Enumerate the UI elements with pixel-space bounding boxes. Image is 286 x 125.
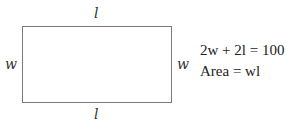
rectangle-diagram: l l w w 2w + 2l = 100 Area = wl [0,0,286,125]
top-side-label: l [94,6,98,20]
area-equation: Area = wl [200,64,260,79]
left-side-label: w [5,57,17,71]
perimeter-equation: 2w + 2l = 100 [200,43,284,58]
rectangle-shape [22,26,172,103]
right-side-label: w [177,57,189,71]
bottom-side-label: l [94,107,98,121]
